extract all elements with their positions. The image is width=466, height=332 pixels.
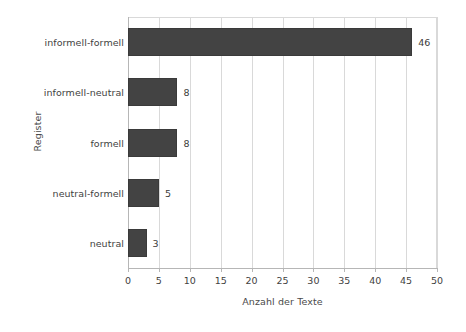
x-tick-mark <box>406 268 407 272</box>
bar <box>128 129 177 157</box>
x-tick-mark <box>313 268 314 272</box>
category-label: informell-neutral <box>14 87 124 98</box>
x-tick-label: 35 <box>332 275 356 286</box>
bar <box>128 179 159 207</box>
category-label: informell-formell <box>14 37 124 48</box>
x-tick-label: 10 <box>178 275 202 286</box>
category-axis-labels: informell-formellinformell-neutralformel… <box>14 17 124 268</box>
x-tick-label: 30 <box>301 275 325 286</box>
x-tick-mark <box>437 268 438 272</box>
x-tick-label: 50 <box>425 275 449 286</box>
category-label: neutral <box>14 237 124 248</box>
bar-chart: Register informell-formellinformell-neut… <box>0 0 466 332</box>
x-tick-label: 15 <box>209 275 233 286</box>
x-tick-label: 25 <box>271 275 295 286</box>
category-label: neutral-formell <box>14 187 124 198</box>
bar-value-label: 46 <box>418 37 430 48</box>
x-tick-mark <box>190 268 191 272</box>
x-tick-label: 0 <box>116 275 140 286</box>
x-tick-mark <box>283 268 284 272</box>
bar-value-label: 5 <box>165 187 171 198</box>
bar-value-label: 8 <box>183 87 189 98</box>
bar <box>128 28 412 56</box>
bar-value-label: 3 <box>153 237 159 248</box>
x-tick-mark <box>128 268 129 272</box>
bar <box>128 78 177 106</box>
plot-area <box>128 17 437 268</box>
x-tick-mark <box>375 268 376 272</box>
bar-value-label: 8 <box>183 137 189 148</box>
x-tick-label: 5 <box>147 275 171 286</box>
x-tick-label: 45 <box>394 275 418 286</box>
x-tick-mark <box>252 268 253 272</box>
x-tick-label: 40 <box>363 275 387 286</box>
x-tick-mark <box>221 268 222 272</box>
x-axis-title: Anzahl der Texte <box>128 296 437 307</box>
x-tick-label: 20 <box>240 275 264 286</box>
x-gridline <box>437 17 438 268</box>
x-tick-mark <box>344 268 345 272</box>
category-label: formell <box>14 137 124 148</box>
bar <box>128 229 147 257</box>
x-tick-mark <box>159 268 160 272</box>
